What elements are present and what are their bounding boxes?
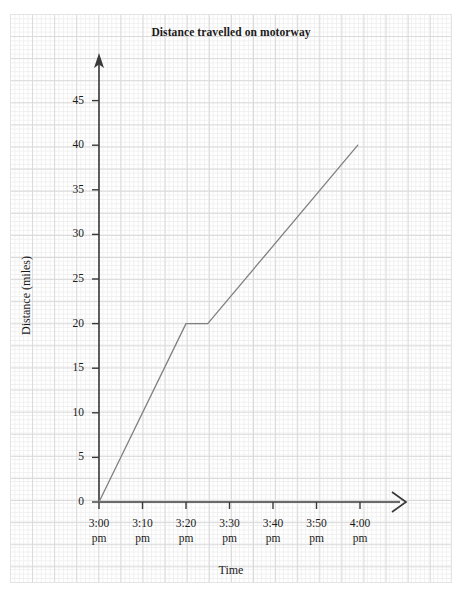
x-tick-label: 4:00pm	[330, 516, 390, 546]
x-tick-label-time: 3:10	[132, 517, 152, 529]
y-tick-label: 5	[44, 450, 84, 462]
x-tick-label-meridiem: pm	[222, 532, 237, 544]
x-tick-label-meridiem: pm	[353, 532, 368, 544]
y-tick-label: 40	[44, 138, 84, 150]
x-tick-label-meridiem: pm	[135, 532, 150, 544]
x-tick-label-time: 3:50	[306, 517, 326, 529]
data-line-distance-travelled	[99, 145, 358, 502]
y-axis-ticks	[92, 101, 99, 502]
x-tick-label-meridiem: pm	[309, 532, 324, 544]
x-tick-label-meridiem: pm	[92, 532, 107, 544]
x-tick-label-meridiem: pm	[179, 532, 194, 544]
x-tick-label-time: 3:20	[176, 517, 196, 529]
y-tick-label: 25	[44, 272, 84, 284]
x-tick-label-time: 4:00	[350, 517, 370, 529]
y-tick-label: 15	[44, 361, 84, 373]
x-tick-label-time: 3:40	[263, 517, 283, 529]
y-axis-title: Distance (miles)	[19, 226, 34, 366]
plot-area	[0, 0, 462, 598]
x-tick-label-meridiem: pm	[266, 532, 281, 544]
x-axis-ticks	[99, 502, 360, 509]
y-tick-label: 35	[44, 183, 84, 195]
y-tick-label: 20	[44, 317, 84, 329]
x-tick-label-time: 3:00	[89, 517, 109, 529]
y-tick-label: 45	[44, 94, 84, 106]
chart-page: Distance travelled on motorway	[0, 0, 462, 598]
x-tick-label-time: 3:30	[219, 517, 239, 529]
y-tick-label: 30	[44, 227, 84, 239]
y-tick-label: 0	[44, 495, 84, 507]
x-axis-title: Time	[0, 563, 462, 578]
y-tick-label: 10	[44, 406, 84, 418]
